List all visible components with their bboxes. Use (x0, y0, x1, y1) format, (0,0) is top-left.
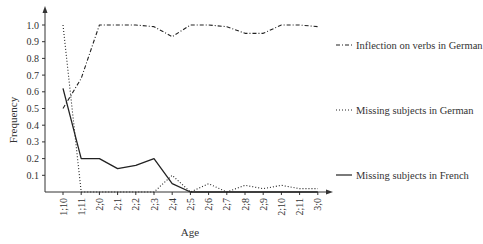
y-tick-label: 0.2 (27, 153, 40, 164)
x-tick-label: 2;4 (167, 198, 178, 211)
legend-label: Missing subjects in German (356, 105, 474, 116)
series-lines (63, 25, 318, 192)
legend-label: Inflection on verbs in German (356, 40, 483, 51)
legend-label: Missing subjects in French (356, 170, 470, 181)
x-tick-label: 3;0 (312, 198, 323, 211)
legend-item-missing-subjects-french: Missing subjects in French (336, 170, 470, 181)
x-tick-label: 2;0 (94, 198, 105, 211)
x-tick-label: 1;11 (76, 198, 87, 215)
x-tick-label: 2;8 (240, 198, 251, 211)
x-tick-label: 1;10 (58, 198, 69, 216)
y-tick-label: 0.3 (27, 136, 40, 147)
series-line-solid (63, 88, 318, 192)
x-axis-arrow-icon (326, 190, 333, 195)
x-tick-label: 2;5 (185, 198, 196, 211)
y-axis-arrow-icon (43, 6, 48, 13)
x-tick-label: 2;1 (112, 198, 123, 211)
x-tick-label: 2;3 (149, 198, 160, 211)
y-tick-label: 0.4 (27, 120, 40, 131)
legend: Inflection on verbs in German Missing su… (336, 40, 483, 181)
x-axis: 1;101;112;02;12;22;32;42;52;62;72;82;92;… (45, 190, 333, 216)
legend-item-inflection-german: Inflection on verbs in German (336, 40, 483, 51)
y-tick-label: 0.7 (27, 70, 40, 81)
series-line-dash-dot (63, 25, 318, 109)
y-axis: 0.10.20.30.40.50.60.70.80.91.0 (27, 6, 48, 192)
y-tick-label: 0.9 (27, 36, 40, 47)
x-axis-title: Age (181, 226, 199, 238)
x-tick-label: 2;6 (203, 198, 214, 211)
x-tick-label: 2;11 (294, 198, 305, 215)
x-tick-label: 2;7 (221, 198, 232, 211)
y-tick-label: 0.1 (27, 170, 40, 181)
y-tick-label: 0.5 (27, 103, 40, 114)
series-line-dotted (63, 25, 318, 192)
y-tick-label: 1.0 (27, 20, 40, 31)
x-tick-label: 2;10 (276, 198, 287, 216)
line-chart: 0.10.20.30.40.50.60.70.80.91.0 1;101;112… (0, 0, 483, 244)
y-axis-title: Frequency (7, 96, 19, 143)
x-tick-label: 2;9 (258, 198, 269, 211)
y-tick-label: 0.6 (27, 86, 40, 97)
y-tick-label: 0.8 (27, 53, 40, 64)
x-tick-label: 2;2 (130, 198, 141, 211)
legend-item-missing-subjects-german: Missing subjects in German (336, 105, 474, 116)
